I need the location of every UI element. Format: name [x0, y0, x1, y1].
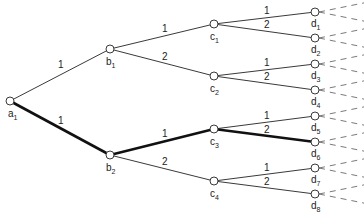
dashed-continuation — [319, 90, 364, 99]
edge-label: 1 — [264, 5, 270, 16]
node-label-d1: d1 — [311, 18, 321, 31]
node-label-a1: a1 — [8, 108, 18, 121]
node-label-c2: c2 — [210, 83, 219, 96]
dashed-continuation — [319, 168, 364, 177]
edge-label: 2 — [264, 176, 270, 187]
node-label-c3: c3 — [210, 136, 219, 149]
node-b2 — [106, 151, 114, 159]
node-label-d2: d2 — [311, 44, 321, 57]
node-d4 — [311, 86, 319, 94]
tree-diagram: 11121212121212a1b1b2c1c2c3c4d1d2d3d4d5d6… — [0, 0, 364, 215]
node-label-d5: d5 — [311, 122, 321, 135]
dashed-continuation — [319, 116, 364, 125]
edge-label: 1 — [162, 23, 168, 34]
edge-label: 1 — [264, 110, 270, 121]
dashed-continuation — [319, 133, 364, 142]
node-d3 — [311, 60, 319, 68]
dashed-continuation — [319, 194, 364, 203]
edge-label: 1 — [162, 128, 168, 139]
dashed-continuation — [319, 38, 364, 47]
node-label-d6: d6 — [311, 148, 321, 161]
dashed-continuation — [319, 55, 364, 64]
edge-a1-b2 — [10, 101, 110, 155]
edge-label: 1 — [58, 59, 64, 70]
node-d6 — [311, 138, 319, 146]
dashed-continuation — [319, 12, 364, 21]
node-label-b1: b1 — [106, 56, 116, 69]
edge-label: 2 — [162, 51, 168, 62]
edge-label: 2 — [264, 19, 270, 30]
dashed-continuation — [319, 185, 364, 194]
edge-label: 1 — [58, 115, 64, 126]
node-label-d8: d8 — [311, 200, 321, 213]
dashed-continuation — [319, 64, 364, 73]
node-label-b2: b2 — [106, 162, 116, 175]
node-label-c1: c1 — [210, 31, 219, 44]
dashed-continuation — [319, 3, 364, 12]
node-label-d4: d4 — [311, 96, 321, 109]
continuation-dashes — [319, 3, 364, 203]
dashed-continuation — [319, 159, 364, 168]
dashed-continuation — [319, 142, 364, 151]
edge-label: 2 — [162, 156, 168, 167]
node-c3 — [210, 125, 218, 133]
node-d5 — [311, 112, 319, 120]
node-b1 — [106, 45, 114, 53]
edge-a1-b1 — [10, 49, 110, 101]
node-label-c4: c4 — [210, 188, 219, 201]
node-label-d7: d7 — [311, 174, 321, 187]
dashed-continuation — [319, 81, 364, 90]
node-c1 — [210, 20, 218, 28]
edge-label: 1 — [264, 57, 270, 68]
edge-label: 2 — [264, 124, 270, 135]
node-d1 — [311, 8, 319, 16]
edge-label: 1 — [264, 162, 270, 173]
node-c2 — [210, 72, 218, 80]
dashed-continuation — [319, 29, 364, 38]
node-d2 — [311, 34, 319, 42]
node-a1 — [6, 97, 14, 105]
node-c4 — [210, 177, 218, 185]
node-d7 — [311, 164, 319, 172]
node-label-d3: d3 — [311, 70, 321, 83]
node-d8 — [311, 190, 319, 198]
dashed-continuation — [319, 107, 364, 116]
edge-label: 2 — [264, 71, 270, 82]
